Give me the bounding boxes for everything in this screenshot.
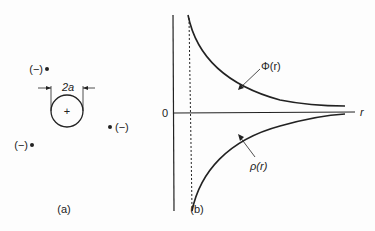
panel-a-caption: (a) [57, 203, 70, 215]
phi-label: Φ(r) [261, 60, 281, 72]
counter-ion-label: (−) [14, 139, 28, 151]
y-axis [173, 15, 174, 211]
dimension-label: 2a [61, 81, 74, 93]
counter-ion-label: (−) [29, 63, 43, 75]
counter-ion-label: (−) [115, 121, 129, 133]
panel-a: + 2a (−) (−) (−) (a) [14, 63, 129, 215]
x-axis [174, 112, 355, 113]
rho-pointer [240, 137, 255, 157]
phi-pointer [240, 69, 260, 88]
counter-ion-dot [108, 125, 112, 129]
center-charge-label: + [64, 105, 70, 117]
arrowhead-icon [238, 134, 244, 141]
arrowhead-icon [83, 86, 88, 90]
panel-b-caption: (b) [190, 203, 203, 215]
counter-ion-dot [45, 67, 49, 71]
origin-label: 0 [162, 107, 168, 119]
arrowhead-icon [46, 86, 51, 90]
panel-b: 0 r Φ(r) ρ(r) (b) [162, 15, 365, 215]
figure-canvas: + 2a (−) (−) (−) (a) 0 r Φ(r) [0, 0, 375, 231]
x-axis-label: r [360, 106, 365, 118]
rho-curve [192, 114, 345, 211]
counter-ion-dot [30, 143, 34, 147]
rho-label: ρ(r) [249, 160, 268, 172]
